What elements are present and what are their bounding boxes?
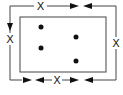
label-left: X [6,33,14,46]
label-bottom: X [53,74,61,87]
dot [39,46,44,51]
arrow-right-icon [23,77,32,83]
arrow-left-icon [35,77,44,83]
dot [74,35,79,40]
inner-rectangle [20,17,106,72]
circulation-diagram: X X X X [0,0,123,95]
dot [39,25,44,30]
arrow-right-icon [70,3,79,9]
dot [74,59,79,64]
arrow-down-icon [7,23,13,31]
arrow-right-icon [70,77,79,83]
label-right: X [112,37,120,50]
label-top: X [37,0,45,13]
arrow-left-icon [83,3,92,9]
arrow-left-icon [84,77,93,83]
dots [39,25,79,64]
